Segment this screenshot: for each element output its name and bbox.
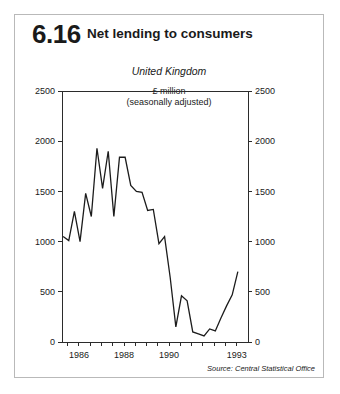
source-note: Source: Central Statistical Office <box>207 364 315 373</box>
line-chart-svg: 0050050010001000150015002000200025002500… <box>15 15 325 379</box>
y-axis-label-right: 2500 <box>255 86 275 96</box>
y-axis-label-right: 500 <box>255 287 270 297</box>
x-axis-label: 1990 <box>159 350 179 360</box>
y-axis-label-left: 0 <box>50 337 55 347</box>
figure-panel: 6.16 Net lending to consumers United Kin… <box>0 0 340 394</box>
x-axis-label: 1993 <box>227 350 247 360</box>
y-axis-label-right: 0 <box>255 337 260 347</box>
y-axis-label-left: 2500 <box>35 86 55 96</box>
data-series-group <box>63 148 238 336</box>
y-axis-label-left: 1500 <box>35 187 55 197</box>
plot-area: 0050050010001000150015002000200025002500… <box>15 15 325 379</box>
x-axis-label: 1986 <box>69 350 89 360</box>
x-axis-label: 1988 <box>114 350 134 360</box>
data-series-line <box>63 148 238 336</box>
y-axis-label-right: 1000 <box>255 237 275 247</box>
y-axis-label-left: 2000 <box>35 136 55 146</box>
y-axis-label-right: 2000 <box>255 136 275 146</box>
figure-frame: 6.16 Net lending to consumers United Kin… <box>14 14 324 378</box>
y-axis-label-left: 500 <box>40 287 55 297</box>
y-axis-label-right: 1500 <box>255 187 275 197</box>
y-axis-label-left: 1000 <box>35 237 55 247</box>
